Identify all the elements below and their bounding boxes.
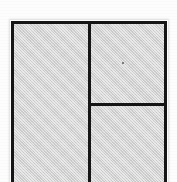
left-panel <box>14 24 88 182</box>
outer-rectangle-right-edge <box>164 21 167 182</box>
diagram-canvas: Rectangle divided by one vertical rule a… <box>0 0 177 182</box>
scan-speck <box>122 62 124 64</box>
upper-right-panel <box>91 24 164 103</box>
horizontal-divider <box>88 103 167 106</box>
lower-right-panel <box>91 106 164 182</box>
outer-rectangle-left-edge <box>11 21 14 182</box>
figure-description: Rectangle divided by one vertical rule a… <box>0 0 1 1</box>
vertical-divider <box>88 21 91 182</box>
